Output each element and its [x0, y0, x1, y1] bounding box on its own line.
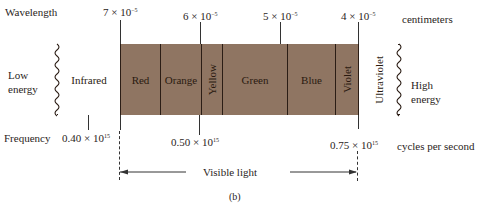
frequency-tick-line [199, 115, 200, 135]
frequency-tick-line [88, 115, 89, 130]
high-energy-label: High energy [411, 78, 441, 106]
base: 10 [361, 139, 372, 151]
wavelength-unit-label: centimeters [402, 13, 453, 25]
exponent: −5 [211, 11, 217, 17]
mantissa: 7 [103, 6, 109, 18]
exponent: −5 [369, 11, 375, 17]
wavy-left-edge-icon [52, 43, 62, 117]
band-yellow: Yellow [201, 44, 222, 115]
mantissa: 0.75 [330, 139, 349, 151]
times: × [349, 10, 355, 22]
wavelength-tick-line [358, 22, 359, 44]
band-label: Yellow [206, 64, 218, 95]
frequency-tick-0.75e15: 0.75 × 1015 [330, 139, 378, 151]
band-label: Violet [341, 66, 353, 93]
high-energy-line1: High [411, 78, 441, 92]
band-label: Ultraviolet [373, 56, 385, 104]
wavelength-tick-4e-5: 4 × 10−5 [341, 10, 376, 22]
low-energy-label: Low energy [8, 68, 38, 96]
band-blue: Blue [287, 44, 335, 115]
band-orange: Orange [160, 44, 201, 115]
band-label: Red [132, 74, 150, 86]
mantissa: 5 [263, 10, 269, 22]
exponent: −5 [291, 11, 297, 17]
exponent: −5 [131, 7, 137, 13]
band-ultraviolet: Ultraviolet [358, 44, 398, 115]
wavelength-tick-7e-5: 7 × 10−5 [103, 6, 138, 18]
high-energy-line2: energy [411, 92, 441, 106]
low-energy-line1: Low [8, 68, 38, 82]
mantissa: 0.40 [62, 132, 81, 144]
base: 10 [280, 10, 291, 22]
band-label: Blue [301, 74, 322, 86]
wavelength-tick-5e-5: 5 × 10−5 [263, 10, 298, 22]
times: × [111, 6, 117, 18]
times: × [191, 10, 197, 22]
figure-caption: (b) [229, 191, 241, 202]
frequency-unit-label: cycles per second [397, 140, 475, 152]
frequency-tick-0.40e15: 0.40 × 1015 [62, 132, 110, 144]
band-violet: Violet [335, 44, 358, 115]
frequency-row-label: Frequency [4, 132, 50, 144]
base: 10 [202, 136, 213, 148]
frequency-tick-0.50e15: 0.50 × 1015 [171, 136, 219, 148]
band-green: Green [222, 44, 287, 115]
base: 10 [200, 10, 211, 22]
band-label: Infrared [71, 74, 106, 86]
exponent: 15 [372, 140, 378, 146]
exponent: 15 [104, 133, 110, 139]
wavy-right-edge-icon [395, 43, 405, 117]
base: 10 [120, 6, 131, 18]
base: 10 [93, 132, 104, 144]
times: × [84, 132, 90, 144]
frequency-tick-line [120, 115, 121, 130]
band-label: Orange [165, 74, 197, 86]
wavelength-tick-line [280, 22, 281, 44]
times: × [352, 139, 358, 151]
mantissa: 6 [183, 10, 189, 22]
wavelength-tick-6e-5: 6 × 10−5 [183, 10, 218, 22]
wavelength-tick-line [120, 20, 121, 44]
times: × [193, 136, 199, 148]
exponent: 15 [213, 137, 219, 143]
mantissa: 0.50 [171, 136, 190, 148]
wavelength-tick-line [200, 22, 201, 44]
band-red: Red [120, 44, 160, 115]
times: × [271, 10, 277, 22]
mantissa: 4 [341, 10, 347, 22]
band-infrared: Infrared [58, 44, 120, 115]
low-energy-line2: energy [8, 82, 38, 96]
wavelength-row-label: Wavelength [5, 6, 57, 18]
frequency-tick-line [358, 115, 359, 129]
base: 10 [358, 10, 369, 22]
visible-light-label: Visible light [203, 166, 257, 178]
band-label: Green [242, 74, 269, 86]
